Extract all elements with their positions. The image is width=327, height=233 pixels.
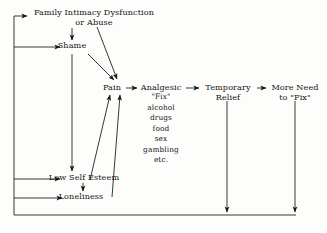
node-temporary-relief: Temporary Relief — [200, 83, 256, 102]
edge-root-to-pain — [97, 27, 117, 79]
addiction-cycle-diagram: Family Intimacy Dysfunction or Abuse Sha… — [0, 0, 327, 233]
node-loneliness: Loneliness — [52, 192, 110, 202]
node-low-self-esteem: Low Self Esteem — [48, 173, 120, 183]
edge-shame-to-pain — [88, 54, 114, 80]
node-more-need-to-fix: More Need to "Fix" — [267, 83, 323, 102]
node-analgesic-list: "Fix" alcohol drugs food sex gambling et… — [138, 92, 184, 166]
node-family-intimacy-dysfunction: Family Intimacy Dysfunction or Abuse — [28, 8, 160, 27]
node-pain: Pain — [99, 83, 125, 93]
node-shame: Shame — [48, 41, 96, 51]
edge-low-self-esteem-to-pain — [90, 95, 110, 180]
